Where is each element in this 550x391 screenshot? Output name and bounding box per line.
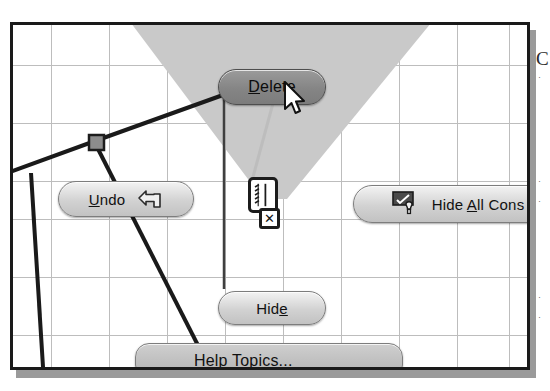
- margin-tick: ·: [538, 176, 541, 186]
- sketch-graphics-panel[interactable]: ✕ Delete Undo Hide Hide All Cons Hel: [10, 22, 530, 370]
- menu-item-hide-prefix: Hid: [256, 300, 279, 317]
- menu-item-hide-all-constraints[interactable]: Hide All Cons: [353, 185, 530, 223]
- menu-item-hide-mnemonic: e: [279, 300, 288, 317]
- menu-item-hide[interactable]: Hide: [218, 291, 326, 325]
- constraint-glyph: [251, 180, 275, 210]
- margin-tick: ·: [538, 72, 541, 82]
- menu-item-help-topics-label: Help Topics...: [194, 352, 293, 370]
- menu-item-delete-mnemonic: D: [248, 78, 260, 96]
- menu-item-hide-all-constraints-label: Hide All Cons: [432, 196, 525, 213]
- margin-tick: ·: [538, 312, 541, 322]
- margin-tick: ·: [538, 292, 541, 302]
- parallel-constraint-symbol[interactable]: ✕: [248, 177, 284, 239]
- margin-tick: ·: [538, 196, 541, 206]
- constraint-delete-badge[interactable]: ✕: [259, 208, 280, 229]
- menu-item-delete[interactable]: Delete: [218, 69, 326, 105]
- menu-item-help-topics[interactable]: Help Topics...: [135, 343, 403, 370]
- margin-clipped-letter: C: [536, 48, 549, 70]
- screenshot-root: C · · · · ·: [0, 0, 550, 391]
- mouse-pointer-cursor: [283, 81, 309, 119]
- undo-arrow-icon: [137, 188, 163, 210]
- menu-item-undo[interactable]: Undo: [58, 181, 194, 217]
- hide-constraints-icon: [392, 190, 422, 218]
- menu-item-undo-label: Undo: [89, 191, 126, 208]
